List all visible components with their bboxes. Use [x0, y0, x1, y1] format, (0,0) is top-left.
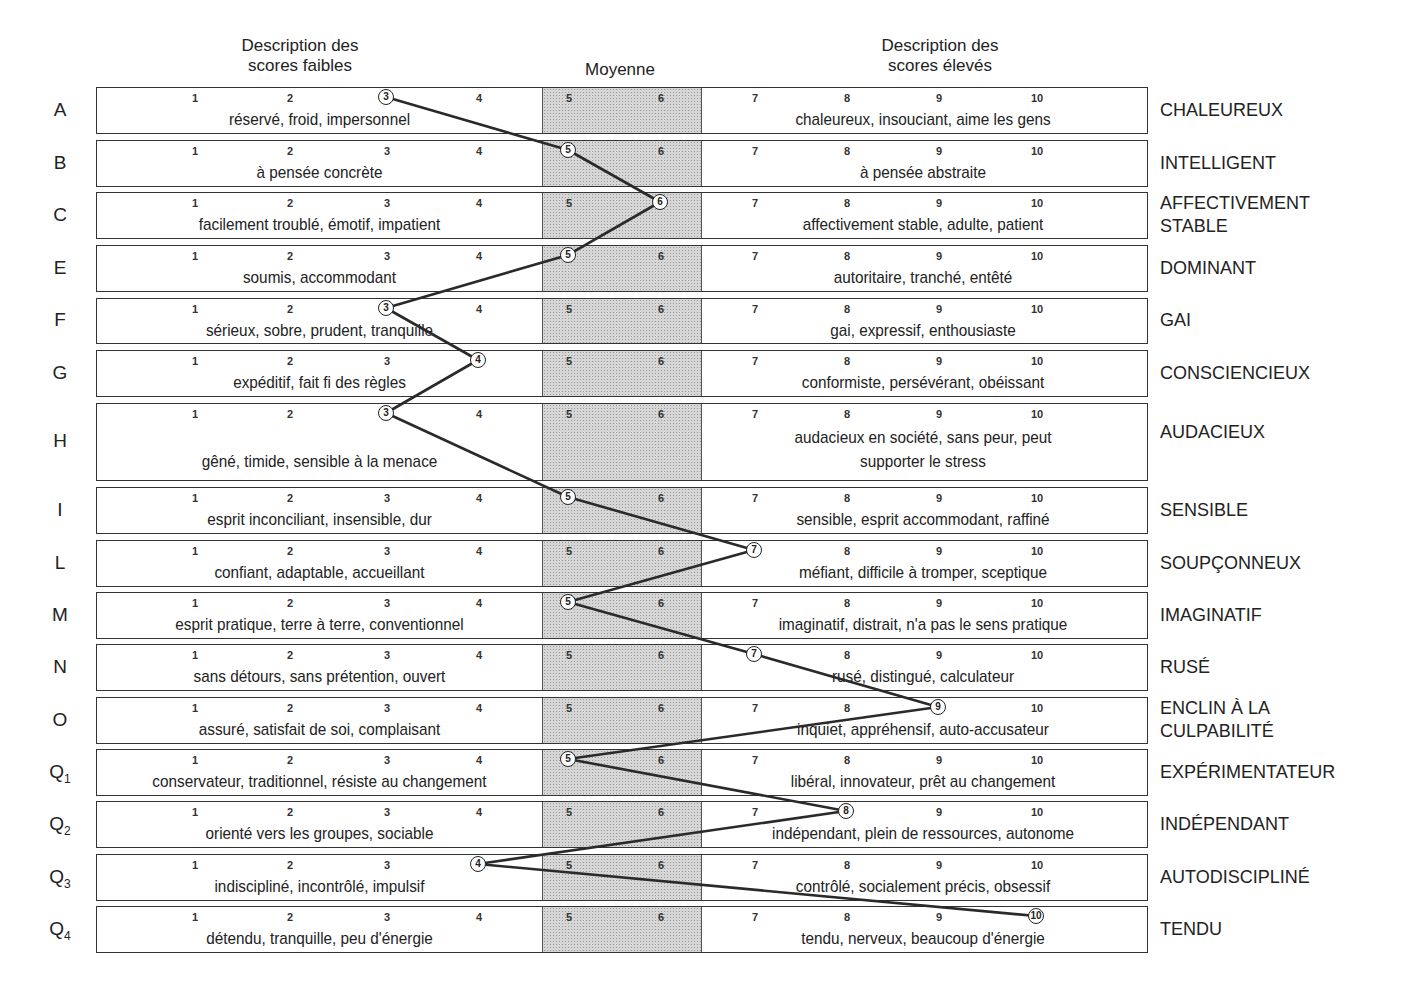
scale-tick: 10: [1031, 754, 1043, 766]
factor-subscript: 4: [64, 928, 71, 942]
factor-row: 1245678910réservé, froid, impersonnelcha…: [96, 87, 1148, 134]
score-marker: 9: [930, 699, 946, 715]
factor-letter: H: [53, 430, 67, 451]
factor-letter: Q: [49, 866, 64, 887]
header-high-line2: scores élevés: [840, 56, 1040, 76]
pole-label-line1: DOMINANT: [1160, 257, 1256, 280]
scale-tick: 5: [566, 303, 572, 315]
scale-tick: 6: [658, 754, 664, 766]
high-pole-label: AFFECTIVEMENTSTABLE: [1160, 192, 1310, 238]
scale-tick: 10: [1031, 303, 1043, 315]
scale-tick: 8: [844, 911, 850, 923]
score-marker: 10: [1028, 908, 1044, 924]
scale-tick: 7: [752, 754, 758, 766]
factor-row: 1245678910sérieux, sobre, prudent, tranq…: [96, 298, 1148, 344]
scale-tick: 10: [1031, 355, 1043, 367]
pole-label-line1: RUSÉ: [1160, 656, 1210, 679]
low-score-description: sérieux, sobre, prudent, tranquille: [119, 321, 520, 341]
scale-tick: 2: [287, 92, 293, 104]
scale-tick: 9: [936, 545, 942, 557]
scale-tick: 4: [476, 702, 482, 714]
factor-label: H: [30, 430, 90, 452]
scale-tick: 9: [936, 806, 942, 818]
header-average: Moyenne: [540, 60, 700, 80]
factor-letter: Q: [49, 761, 64, 782]
scale-tick: 10: [1031, 702, 1043, 714]
score-marker: 6: [652, 194, 668, 210]
high-score-description: conformiste, persévérant, obéissant: [722, 373, 1123, 393]
scale-tick: 6: [658, 597, 664, 609]
scale-tick: 7: [752, 597, 758, 609]
score-marker: 7: [746, 542, 762, 558]
scale-tick: 4: [476, 754, 482, 766]
factor-label: Q2: [30, 813, 90, 838]
factor-letter: N: [53, 656, 67, 677]
pole-label-line1: IMAGINATIF: [1160, 604, 1262, 627]
high-pole-label: AUDACIEUX: [1160, 421, 1265, 444]
header-high-scores: Description des scores élevés: [840, 36, 1040, 76]
high-score-description: contrôlé, socialement précis, obsessif: [722, 877, 1123, 897]
scale-tick: 9: [936, 145, 942, 157]
score-marker: 7: [746, 646, 762, 662]
factor-row: 1234578910facilement troublé, émotif, im…: [96, 192, 1148, 239]
scale-tick: 1: [192, 145, 198, 157]
scale-tick: 3: [384, 859, 390, 871]
high-pole-label: ENCLIN À LACULPABILITÉ: [1160, 697, 1274, 743]
factor-label: Q4: [30, 918, 90, 943]
factor-label: G: [30, 362, 90, 384]
factor-label: I: [30, 499, 90, 521]
scale-tick: 7: [752, 806, 758, 818]
factor-label: F: [30, 309, 90, 331]
factor-label: E: [30, 257, 90, 279]
factor-letter: L: [55, 552, 66, 573]
pole-label-line1: SENSIBLE: [1160, 499, 1248, 522]
high-score-description: sensible, esprit accommodant, raffiné: [722, 510, 1123, 530]
scale-tick: 8: [844, 92, 850, 104]
scale-tick: 5: [566, 859, 572, 871]
scale-tick: 3: [384, 197, 390, 209]
pole-label-line2: CULPABILITÉ: [1160, 720, 1274, 743]
pole-label-line1: CHALEUREUX: [1160, 99, 1283, 122]
scale-tick: 9: [936, 303, 942, 315]
scale-tick: 9: [936, 197, 942, 209]
scale-tick: 4: [476, 145, 482, 157]
scale-tick: 1: [192, 911, 198, 923]
scale-tick: 5: [566, 92, 572, 104]
scale-tick: 8: [844, 859, 850, 871]
score-marker: 4: [470, 352, 486, 368]
factor-letter: E: [54, 257, 67, 278]
scale-tick: 1: [192, 545, 198, 557]
factor-subscript: 3: [64, 876, 71, 890]
scale-tick: 1: [192, 92, 198, 104]
scale-tick: 5: [566, 408, 572, 420]
factor-row: 1234568910confiant, adaptable, accueilla…: [96, 540, 1148, 587]
scale-tick: 8: [844, 408, 850, 420]
pole-label-line1: AUDACIEUX: [1160, 421, 1265, 444]
scale-tick: 9: [936, 754, 942, 766]
high-pole-label: RUSÉ: [1160, 656, 1210, 679]
score-marker: 4: [470, 856, 486, 872]
scale-tick: 1: [192, 754, 198, 766]
scale-tick: 7: [752, 92, 758, 104]
scale-tick: 3: [384, 145, 390, 157]
factor-row: 1234678910à pensée concrèteà pensée abst…: [96, 140, 1148, 187]
scale-tick: 8: [844, 303, 850, 315]
scale-tick: 1: [192, 859, 198, 871]
scale-tick: 2: [287, 806, 293, 818]
scale-tick: 6: [658, 145, 664, 157]
low-score-description: expéditif, fait fi des règles: [119, 373, 520, 393]
factor-label: B: [30, 152, 90, 174]
scale-tick: 9: [936, 92, 942, 104]
high-pole-label: AUTODISCIPLINÉ: [1160, 866, 1310, 889]
scale-tick: 6: [658, 702, 664, 714]
high-score-description: rusé, distingué, calculateur: [722, 667, 1123, 687]
high-score-description: autoritaire, tranché, entêté: [722, 268, 1123, 288]
scale-tick: 2: [287, 145, 293, 157]
scale-tick: 10: [1031, 145, 1043, 157]
scale-tick: 6: [658, 911, 664, 923]
scale-tick: 6: [658, 649, 664, 661]
scale-tick: 10: [1031, 197, 1043, 209]
scale-tick: 10: [1031, 545, 1043, 557]
high-score-description: libéral, innovateur, prêt au changement: [722, 772, 1123, 792]
scale-tick: 10: [1031, 492, 1043, 504]
